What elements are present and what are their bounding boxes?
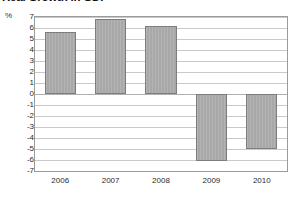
- x-tick-label-2006: 2006: [40, 176, 80, 185]
- y-tick-label: 5: [4, 35, 34, 43]
- gridline: [35, 171, 287, 172]
- chart-title: Real Growth in GDP: [2, 0, 108, 3]
- bar-2009: [196, 94, 227, 161]
- bar-2006: [45, 32, 76, 94]
- y-tick-label: -4: [4, 134, 34, 142]
- x-tick-label-2009: 2009: [191, 176, 231, 185]
- x-tick-label-2008: 2008: [141, 176, 181, 185]
- y-tick-label: 1: [4, 79, 34, 87]
- y-tick-label: -2: [4, 112, 34, 120]
- x-tick-label-2010: 2010: [242, 176, 282, 185]
- y-tick-label: 6: [4, 24, 34, 32]
- y-tick-label: -3: [4, 123, 34, 131]
- bar-2007: [95, 19, 126, 94]
- gridline: [35, 160, 287, 161]
- y-tick-label: -6: [4, 156, 34, 164]
- gridline: [35, 17, 287, 18]
- gridline: [35, 149, 287, 150]
- y-tick-label: 7: [4, 13, 34, 21]
- y-tick-label: 2: [4, 68, 34, 76]
- bar-2008: [145, 26, 176, 94]
- y-tick-label: 4: [4, 46, 34, 54]
- plot-area: [34, 16, 288, 172]
- chart-figure: Real Growth in GDP % 76543210-1-2-3-4-5-…: [0, 0, 300, 199]
- x-tick-label-2007: 2007: [91, 176, 131, 185]
- y-tick-label: -1: [4, 101, 34, 109]
- y-tick-label: -7: [4, 167, 34, 175]
- y-tick-label: -5: [4, 145, 34, 153]
- y-tick-label: 3: [4, 57, 34, 65]
- y-tick-label: 0: [4, 90, 34, 98]
- bar-2010: [246, 94, 277, 149]
